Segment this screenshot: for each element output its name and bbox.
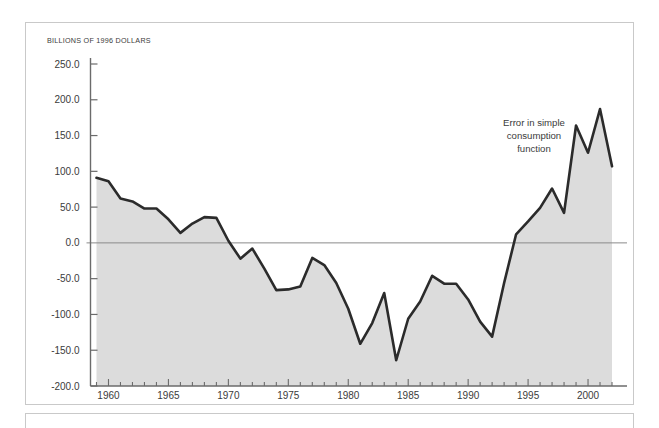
x-axis-tick-label: 2000 (577, 390, 600, 401)
x-axis-tick-label: 1995 (517, 390, 540, 401)
chart-page: 250.0200.0150.0100.050.00.0-50.0-100.0-1… (0, 0, 659, 428)
y-axis-tick-label: 0.0 (66, 237, 80, 248)
y-axis-tick-label: -200.0 (51, 381, 80, 392)
x-axis-tick-label: 1965 (157, 390, 180, 401)
y-axis-tick-label: 100.0 (54, 166, 79, 177)
y-axis-tick-label: -100.0 (51, 309, 80, 320)
y-axis-tick-label: 150.0 (54, 130, 79, 141)
x-axis-tick-label: 1975 (277, 390, 300, 401)
series-annotation-line: function (517, 143, 551, 154)
y-axis-tick-label: -150.0 (51, 345, 80, 356)
y-axis-unit-label: BILLIONS OF 1996 DOLLARS (47, 36, 151, 45)
series-annotation-line: Error in simple (503, 117, 565, 128)
y-axis-tick-label: 50.0 (60, 202, 80, 213)
y-axis-tick-label: -50.0 (57, 273, 80, 284)
y-axis-tick-label: 200.0 (54, 94, 79, 105)
x-axis-tick-label: 1960 (97, 390, 120, 401)
x-axis-tick-label: 1990 (457, 390, 480, 401)
series-annotation-line: consumption (507, 130, 561, 141)
x-axis-tick-label: 1980 (337, 390, 360, 401)
x-axis-tick-label: 1970 (217, 390, 240, 401)
y-axis-tick-label: 250.0 (54, 59, 79, 70)
x-axis-tick-label: 1985 (397, 390, 420, 401)
error-consumption-chart: 250.0200.0150.0100.050.00.0-50.0-100.0-1… (0, 0, 659, 428)
